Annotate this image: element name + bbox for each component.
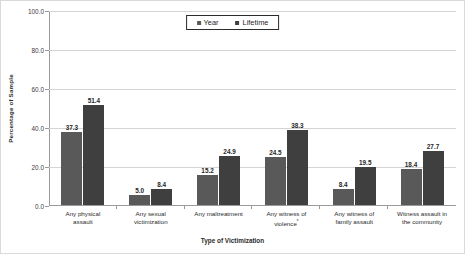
bar-year[interactable]: 24.5: [265, 157, 286, 205]
y-tick-label: 100.0: [28, 8, 44, 15]
bar-value-label: 24.5: [269, 149, 281, 156]
bar-life[interactable]: 8.4: [151, 189, 172, 205]
bar-value-label: 38.3: [291, 122, 303, 129]
category-label-line: assault: [50, 218, 116, 226]
bar-life[interactable]: 38.3: [287, 130, 308, 205]
category-label: Any sexualvictimization: [117, 210, 185, 228]
bar-life[interactable]: 51.4: [83, 105, 104, 205]
bar-year[interactable]: 18.4: [401, 169, 422, 205]
bar-value-label: 18.4: [405, 161, 417, 168]
bar-group: 37.351.4: [49, 11, 117, 205]
bar-group: 5.08.4: [117, 11, 185, 205]
category-label: Any maltreatment: [185, 210, 253, 228]
category-label-line: Witness assault in: [389, 210, 455, 218]
bar-value-label: 8.4: [157, 181, 166, 188]
bar-year[interactable]: 37.3: [61, 132, 82, 205]
bar-value-label: 19.5: [359, 159, 371, 166]
category-label-line: Any witness of: [253, 210, 319, 218]
category-label-line: the community: [389, 218, 455, 226]
legend-swatch-icon: [197, 21, 201, 25]
category-label: Any physicalassault: [49, 210, 117, 228]
legend-label: Lifetime: [243, 18, 269, 27]
bar-value-label: 27.7: [427, 143, 439, 150]
bar-value-label: 37.3: [66, 124, 78, 131]
category-separator: [319, 205, 320, 209]
bar-value-label: 24.9: [223, 148, 235, 155]
category-separator: [387, 205, 388, 209]
bar-group: 18.427.7: [388, 11, 456, 205]
y-tick-mark: [45, 206, 49, 207]
category-label-line: victimization: [118, 218, 184, 226]
y-tick-label: 20.0: [32, 164, 44, 171]
category-separator: [184, 205, 185, 209]
plot-area: 37.351.45.08.415.224.924.538.38.419.518.…: [49, 11, 456, 206]
legend-swatch-icon: [236, 21, 240, 25]
y-tick-label: 40.0: [32, 125, 44, 132]
bar-year[interactable]: 15.2: [197, 175, 218, 205]
legend-item[interactable]: Year: [197, 18, 219, 27]
y-tick-label: 0.0: [35, 203, 44, 210]
bar-value-label: 5.0: [135, 187, 144, 194]
bar-group: 8.419.5: [320, 11, 388, 205]
bar-year[interactable]: 8.4: [333, 189, 354, 205]
category-label: Any witness ofviolence*: [252, 210, 320, 228]
chart-figure: Percentage of Sample 0.020.040.060.080.0…: [0, 0, 465, 254]
legend-item[interactable]: Lifetime: [236, 18, 269, 27]
x-axis-line: [49, 205, 456, 206]
bar-value-label: 51.4: [88, 97, 100, 104]
bar-life[interactable]: 27.7: [423, 151, 444, 205]
y-axis-title-text: Percentage of Sample: [7, 74, 14, 143]
bar-groups: 37.351.45.08.415.224.924.538.38.419.518.…: [49, 11, 456, 205]
category-label-line: Any witness of: [321, 210, 387, 218]
bar-value-label: 8.4: [339, 181, 348, 188]
footnote-marker: *: [297, 219, 299, 224]
category-label: Witness assault inthe community: [388, 210, 456, 228]
bar-group: 24.538.3: [252, 11, 320, 205]
bar-group: 15.224.9: [185, 11, 253, 205]
category-label: Any witness offamily assault: [320, 210, 388, 228]
category-label-line: violence*: [253, 218, 319, 228]
chart-legend: YearLifetime: [186, 15, 280, 30]
category-separator: [251, 205, 252, 209]
category-separator: [116, 205, 117, 209]
bar-year[interactable]: 5.0: [129, 195, 150, 205]
x-axis-title: Type of Victimization: [1, 237, 464, 244]
category-label-line: family assault: [321, 218, 387, 226]
category-label-line: Any physical: [50, 210, 116, 218]
bar-life[interactable]: 24.9: [219, 156, 240, 205]
y-axis-tick-labels: 0.020.040.060.080.0100.0: [15, 11, 47, 206]
category-label-line: Any sexual: [118, 210, 184, 218]
legend-label: Year: [204, 18, 219, 27]
y-tick-label: 60.0: [32, 86, 44, 93]
category-label-line: Any maltreatment: [186, 210, 252, 218]
bar-value-label: 15.2: [201, 167, 213, 174]
y-tick-label: 80.0: [32, 47, 44, 54]
bar-life[interactable]: 19.5: [355, 167, 376, 205]
x-axis-category-labels: Any physicalassaultAny sexualvictimizati…: [49, 210, 456, 228]
